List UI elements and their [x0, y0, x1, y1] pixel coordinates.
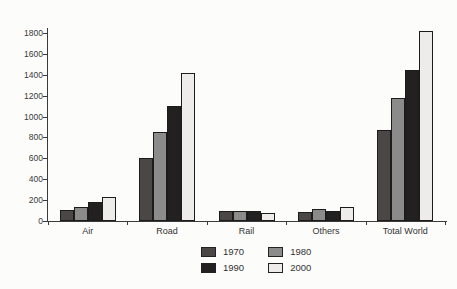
legend-swatch-icon: [268, 247, 283, 257]
y-axis-tick: [43, 96, 47, 97]
legend-item: 1970: [201, 246, 244, 257]
y-axis-tick: [43, 75, 47, 76]
y-axis-tick-label: 1200: [12, 92, 43, 101]
legend-item: 2000: [268, 262, 311, 273]
legend: 1970198019902000: [201, 246, 311, 273]
bar-total-world-1990: [405, 70, 419, 221]
legend-label: 1980: [290, 246, 311, 257]
y-axis-tick-label: 1600: [12, 50, 43, 59]
bar-rail-2000: [261, 213, 275, 221]
y-axis-tick: [43, 221, 47, 222]
bar-air-2000: [102, 197, 116, 221]
y-axis-tick-label: 1400: [12, 71, 43, 80]
y-axis-tick-label: 200: [12, 196, 43, 205]
category-label: Total World: [366, 226, 445, 236]
y-axis-tick: [43, 158, 47, 159]
bar-air-1970: [60, 210, 74, 221]
y-axis-tick-label: 1000: [12, 113, 43, 122]
x-axis-line: [47, 221, 447, 222]
legend-label: 1990: [223, 262, 244, 273]
x-axis-tick: [286, 222, 287, 225]
x-axis-tick: [366, 222, 367, 225]
y-axis-tick-label: 0: [12, 217, 43, 226]
y-axis-tick: [43, 54, 47, 55]
bar-chart: 020040060080010001200140016001800 AirRoa…: [0, 0, 457, 289]
y-axis-tick-label: 400: [12, 175, 43, 184]
y-axis-tick: [43, 179, 47, 180]
bar-rail-1990: [247, 211, 261, 221]
x-axis-tick: [207, 222, 208, 225]
bar-rail-1980: [233, 211, 247, 221]
y-axis-line: [47, 28, 48, 222]
category-label: Others: [286, 226, 365, 236]
y-axis-tick-label: 1800: [12, 29, 43, 38]
y-axis-tick: [43, 33, 47, 34]
legend-swatch-icon: [201, 263, 216, 273]
bar-air-1980: [74, 207, 88, 221]
legend-swatch-icon: [201, 247, 216, 257]
x-axis-tick: [127, 222, 128, 225]
y-axis-tick: [43, 117, 47, 118]
bar-road-1970: [139, 158, 153, 221]
y-axis-tick: [43, 200, 47, 201]
bar-air-1990: [88, 202, 102, 221]
bar-road-1990: [167, 106, 181, 221]
legend-label: 1970: [223, 246, 244, 257]
bar-others-1980: [312, 209, 326, 221]
category-label: Road: [127, 226, 206, 236]
category-label: Rail: [207, 226, 286, 236]
bar-total-world-1970: [377, 130, 391, 221]
legend-item: 1980: [268, 246, 311, 257]
bar-others-1970: [298, 212, 312, 221]
legend-swatch-icon: [268, 263, 283, 273]
legend-item: 1990: [201, 262, 244, 273]
y-axis-tick-label: 600: [12, 154, 43, 163]
x-axis-tick: [48, 222, 49, 225]
bar-total-world-2000: [419, 31, 433, 221]
y-axis-tick: [43, 137, 47, 138]
y-axis-tick-label: 800: [12, 133, 43, 142]
bar-rail-1970: [219, 211, 233, 221]
legend-label: 2000: [290, 262, 311, 273]
x-axis-tick: [445, 222, 446, 225]
category-label: Air: [48, 226, 127, 236]
bar-others-1990: [326, 211, 340, 221]
bar-others-2000: [340, 207, 354, 221]
bar-total-world-1980: [391, 98, 405, 221]
bar-road-2000: [181, 73, 195, 221]
bar-road-1980: [153, 132, 167, 221]
